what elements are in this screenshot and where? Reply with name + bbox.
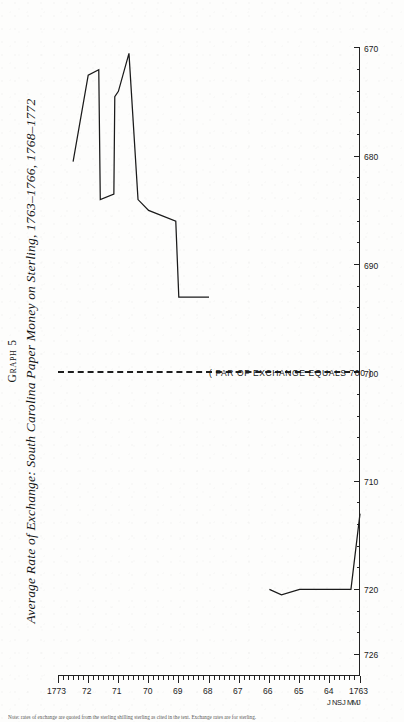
plot-area: 17636465666768697071721773 7267207107006…	[58, 48, 360, 676]
time-tick-minor	[163, 676, 164, 680]
time-tick-major	[88, 676, 89, 683]
time-tick-minor	[143, 676, 144, 680]
month-axis-label: J	[342, 698, 346, 707]
time-axis-label: 70	[143, 686, 152, 696]
month-axis-label: S	[337, 698, 342, 707]
time-tick-major	[209, 676, 210, 683]
time-tick-minor	[254, 676, 255, 680]
time-tick-minor	[229, 676, 230, 680]
time-tick-minor	[309, 676, 310, 680]
time-tick-minor	[334, 676, 335, 680]
time-axis-label: 64	[324, 686, 333, 696]
time-tick-minor	[214, 676, 215, 680]
value-axis-label: 726	[364, 650, 378, 660]
month-axis-label: J	[327, 698, 331, 707]
time-tick-minor	[78, 676, 79, 680]
time-tick-minor	[83, 676, 84, 680]
time-tick-minor	[339, 676, 340, 680]
time-tick-minor	[344, 676, 345, 680]
time-tick-minor	[133, 676, 134, 680]
time-tick-minor	[198, 676, 199, 680]
series-line	[269, 514, 360, 595]
time-tick-minor	[284, 676, 285, 680]
time-tick-minor	[183, 676, 184, 680]
time-axis-label: 1763	[349, 686, 368, 696]
time-tick-minor	[349, 676, 350, 680]
time-axis-label: 65	[294, 686, 303, 696]
time-axis-label: 67	[233, 686, 242, 696]
time-tick-minor	[259, 676, 260, 680]
time-tick-minor	[128, 676, 129, 680]
time-axis-label: 68	[203, 686, 212, 696]
time-tick-minor	[314, 676, 315, 680]
time-tick-minor	[244, 676, 245, 680]
time-tick-minor	[73, 676, 74, 680]
time-tick-major	[239, 676, 240, 683]
time-tick-minor	[63, 676, 64, 680]
time-tick-major	[269, 676, 270, 683]
figure-number: Graph 5	[6, 0, 18, 722]
time-tick-minor	[264, 676, 265, 680]
value-axis-label: 710	[364, 477, 378, 487]
time-axis-label: 1773	[47, 686, 66, 696]
time-axis-label: 69	[173, 686, 182, 696]
scanned-page: Graph 5 Average Rate of Exchange: South …	[0, 0, 404, 722]
value-axis-label: 720	[364, 585, 378, 595]
time-tick-major	[329, 676, 330, 683]
time-tick-minor	[173, 676, 174, 680]
time-tick-minor	[279, 676, 280, 680]
time-tick-minor	[289, 676, 290, 680]
time-axis-label: 71	[112, 686, 121, 696]
month-axis-label: N	[332, 698, 337, 707]
time-tick-minor	[158, 676, 159, 680]
time-tick-minor	[193, 676, 194, 680]
time-tick-minor	[103, 676, 104, 680]
time-tick-minor	[168, 676, 169, 680]
time-tick-major	[360, 676, 361, 683]
time-tick-minor	[224, 676, 225, 680]
time-tick-minor	[219, 676, 220, 680]
time-tick-minor	[108, 676, 109, 680]
time-axis-label: 72	[82, 686, 91, 696]
time-tick-minor	[354, 676, 355, 680]
time-tick-minor	[123, 676, 124, 680]
time-tick-minor	[98, 676, 99, 680]
time-tick-minor	[203, 676, 204, 680]
rotated-figure-stage: Graph 5 Average Rate of Exchange: South …	[0, 0, 404, 722]
time-tick-major	[58, 676, 59, 683]
value-axis-label: 690	[364, 261, 378, 271]
exchange-rate-series	[58, 48, 360, 676]
time-tick-minor	[153, 676, 154, 680]
time-tick-major	[148, 676, 149, 683]
time-tick-minor	[188, 676, 189, 680]
time-tick-major	[178, 676, 179, 683]
time-tick-minor	[294, 676, 295, 680]
time-tick-minor	[249, 676, 250, 680]
month-axis-label: M	[347, 698, 353, 707]
series-line	[73, 53, 209, 297]
value-axis-label: 680	[364, 152, 378, 162]
time-axis-label: 66	[263, 686, 272, 696]
time-tick-minor	[274, 676, 275, 680]
time-tick-minor	[138, 676, 139, 680]
time-tick-minor	[113, 676, 114, 680]
time-tick-major	[118, 676, 119, 683]
time-tick-minor	[324, 676, 325, 680]
figure-titleblock: Graph 5 Average Rate of Exchange: South …	[6, 0, 39, 722]
value-axis-label: 670	[364, 44, 378, 54]
figure-title: Average Rate of Exchange: South Carolina…	[23, 0, 39, 722]
time-tick-minor	[319, 676, 320, 680]
time-tick-minor	[304, 676, 305, 680]
time-tick-minor	[93, 676, 94, 680]
time-tick-major	[299, 676, 300, 683]
figure-footnote: Note: rates of exchange are quoted from …	[8, 714, 398, 721]
time-tick-minor	[68, 676, 69, 680]
time-tick-minor	[234, 676, 235, 680]
